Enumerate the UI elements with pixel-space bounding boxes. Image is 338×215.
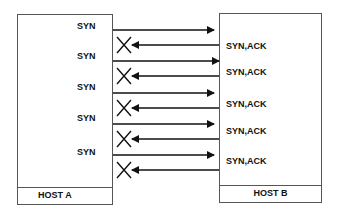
drop-x-icon-1	[117, 37, 131, 53]
message-arrows	[0, 0, 338, 215]
drop-x-icon-2	[117, 68, 131, 84]
drop-x-icon-3	[117, 100, 131, 116]
drop-x-icon-5	[117, 162, 131, 178]
drop-x-icon-4	[117, 131, 131, 147]
